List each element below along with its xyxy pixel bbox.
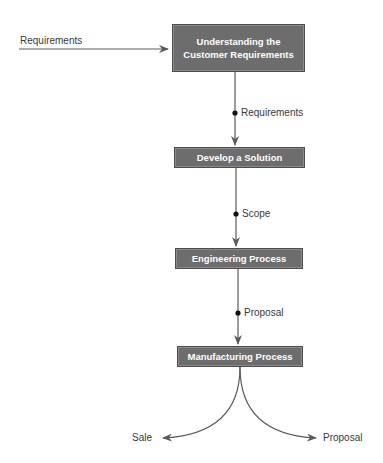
output-label-sale: Sale bbox=[132, 432, 152, 443]
edge-to-sale bbox=[163, 367, 240, 438]
node-manufacturing: Manufacturing Process bbox=[177, 346, 303, 367]
edge-label-requirements: Requirements bbox=[241, 107, 303, 118]
node-engineering: Engineering Process bbox=[175, 248, 303, 269]
edge-to-proposal bbox=[240, 367, 316, 438]
edge-label-proposal: Proposal bbox=[244, 307, 283, 318]
node-develop: Develop a Solution bbox=[174, 147, 305, 168]
edge-label-scope: Scope bbox=[242, 208, 270, 219]
output-label-proposal: Proposal bbox=[323, 432, 362, 443]
node-understand: Understanding the Customer Requirements bbox=[172, 24, 305, 72]
edge-dot-icon bbox=[232, 110, 237, 115]
edge-dot-icon bbox=[235, 310, 240, 315]
input-label: Requirements bbox=[20, 35, 82, 46]
edge-dot-icon bbox=[233, 211, 238, 216]
